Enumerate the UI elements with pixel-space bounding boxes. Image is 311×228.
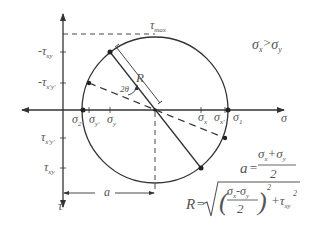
neg-tau-xy-label: -τxy	[38, 44, 53, 60]
tau-axis-label: τ	[58, 199, 63, 213]
mohr-circle-diagram: τmax -τxy -τx'y' τx'y' τxy τ σ σ2 σy' σy…	[0, 0, 311, 228]
center-point	[153, 108, 157, 112]
point-sigma2	[81, 108, 86, 113]
svg-text:+τxy: +τxy	[271, 193, 292, 210]
tau-xy-prime-label: τx'y'	[41, 130, 55, 146]
condition-label: σx>σy	[252, 35, 282, 54]
sigma-y-prime-label: σy'	[89, 112, 100, 128]
sigma-axis-label: σ	[281, 111, 288, 125]
svg-text:σx+σy: σx+σy	[258, 146, 287, 163]
svg-text:a: a	[240, 160, 248, 176]
tau-xy-label: τxy	[44, 160, 55, 176]
sigma-x-prime-label: σx'	[214, 110, 225, 126]
radius-label: R	[135, 70, 144, 85]
point-x-prime	[87, 81, 91, 85]
a-label: a	[104, 185, 110, 199]
angle-arc	[128, 85, 137, 95]
sigma-2-label: σ2	[72, 112, 82, 128]
point-x	[108, 50, 113, 55]
point-y	[199, 166, 204, 171]
svg-text:2: 2	[267, 183, 271, 192]
svg-text:σx-σy: σx-σy	[227, 184, 250, 200]
formula-a: a = σx+σy 2	[240, 146, 296, 181]
formula-r: R = ( σx-σy 2 ) 2 +τxy 2	[185, 182, 300, 216]
svg-text:2: 2	[270, 166, 277, 181]
svg-text:R: R	[185, 196, 195, 212]
sigma-y-label: σy	[107, 112, 117, 128]
sigma-1-label: σ1	[233, 110, 242, 126]
point-y-prime	[223, 136, 227, 140]
tau-max-label: τmax	[150, 18, 167, 34]
svg-text:2: 2	[237, 201, 244, 216]
svg-text:=: =	[249, 160, 258, 175]
angle-label: 2θ	[120, 84, 130, 94]
neg-tau-xy-prime-label: -τx'y'	[38, 75, 56, 91]
svg-text:): )	[256, 187, 267, 216]
sigma-x-label: σx	[198, 110, 208, 126]
point-sigma1	[226, 108, 231, 113]
svg-text:2: 2	[293, 189, 297, 198]
